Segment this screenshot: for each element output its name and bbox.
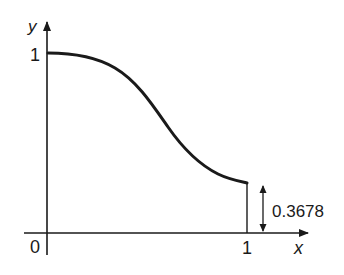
- chart-canvas: y 1 0 1 x 0.3678: [0, 0, 344, 275]
- x-tick-one: 1: [242, 238, 252, 258]
- origin-label: 0: [30, 237, 40, 257]
- annotation-value: 0.3678: [272, 202, 324, 221]
- y-axis-label: y: [27, 17, 38, 36]
- curve-gaussian: [48, 53, 247, 183]
- y-tick-one: 1: [30, 45, 40, 65]
- x-axis-label: x: [293, 238, 304, 258]
